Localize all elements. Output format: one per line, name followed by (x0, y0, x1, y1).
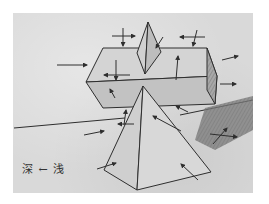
annotation-shallow: 浅 (53, 163, 65, 176)
annotation-deep: 深 (22, 163, 34, 176)
depth-annotation: 深 ← 浅 (22, 160, 65, 176)
annotation-arrow: ← (39, 163, 49, 176)
